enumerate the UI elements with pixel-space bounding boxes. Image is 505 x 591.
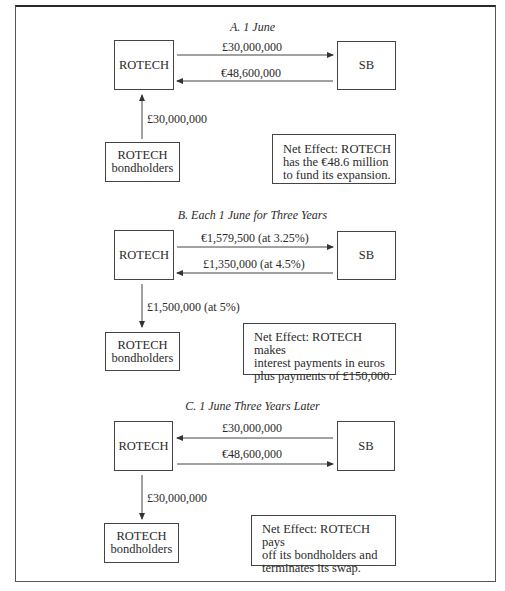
bondholders-box-c: ROTECH bondholders <box>104 523 179 563</box>
bondholders-box-a: ROTECH bondholders <box>105 142 180 182</box>
flow-a-top-label: £30,000,000 <box>222 40 282 55</box>
bondholders-box-b: ROTECH bondholders <box>105 332 180 371</box>
net-effect-c: Net Effect: ROTECH pays off its bondhold… <box>251 515 396 566</box>
flow-b-vertical-label: £1,500,000 (at 5%) <box>147 300 240 315</box>
flow-b-top-label: €1,579,500 (at 3.25%) <box>201 231 309 246</box>
section-b-title: B. Each 1 June for Three Years <box>0 208 505 223</box>
net-effect-b-line1: Net Effect: ROTECH makes <box>254 331 395 357</box>
flow-a-vertical-label: £30,000,000 <box>147 112 207 127</box>
sb-box-a: SB <box>337 41 396 90</box>
bondholders-a-line2: bondholders <box>112 162 174 175</box>
section-c-title: C. 1 June Three Years Later <box>0 399 505 414</box>
flow-c-bottom-label: €48,600,000 <box>222 447 282 462</box>
sb-box-b: SB <box>337 231 396 280</box>
flow-c-top-label: £30,000,000 <box>222 421 282 436</box>
net-effect-b-line3: plus payments of £150,000. <box>254 370 395 383</box>
flow-a-bottom-label: €48,600,000 <box>221 66 281 81</box>
net-effect-c-line3: terminates its swap. <box>262 562 395 575</box>
net-effect-a: Net Effect: ROTECH has the €48.6 million… <box>272 134 396 184</box>
net-effect-b: Net Effect: ROTECH makes interest paymen… <box>243 323 396 375</box>
rotech-box-c: ROTECH <box>114 421 173 471</box>
flow-b-bottom-label: £1,350,000 (at 4.5%) <box>203 257 305 272</box>
rotech-box-b: ROTECH <box>114 230 174 280</box>
sb-box-c: SB <box>337 421 395 471</box>
net-effect-a-line3: to fund its expansion. <box>283 169 395 182</box>
bondholders-c-line2: bondholders <box>111 543 173 556</box>
section-a-title: A. 1 June <box>0 20 505 35</box>
bondholders-b-line2: bondholders <box>112 352 174 365</box>
bondholders-b-line1: ROTECH <box>118 339 168 352</box>
flow-arrows <box>0 0 505 591</box>
rotech-box-a: ROTECH <box>114 40 174 90</box>
net-effect-c-line1: Net Effect: ROTECH pays <box>262 523 395 549</box>
flow-c-vertical-label: £30,000,000 <box>147 491 207 506</box>
